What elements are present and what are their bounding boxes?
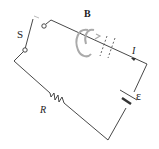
right-wire-upper: [134, 64, 147, 92]
current-label: I: [131, 45, 136, 56]
field-region-dashes: [100, 36, 115, 58]
switch-pivot-terminal: [23, 48, 27, 52]
switch-blade: [25, 19, 33, 49]
bottom-wire-left: [14, 61, 50, 93]
resistor-label: R: [39, 104, 46, 115]
switch-label: S: [17, 28, 23, 40]
current-arrow-icon: [131, 58, 136, 61]
circuit-diagram: S B I R ε: [0, 0, 159, 149]
emf-label: ε: [136, 89, 141, 103]
resistor: [50, 93, 64, 103]
right-wire-lower: [108, 108, 126, 140]
switch-contact-terminal: [42, 24, 46, 28]
field-label: B: [84, 8, 91, 19]
left-wire: [14, 51, 24, 61]
bottom-wire-right: [64, 103, 108, 140]
top-wire: [46, 20, 147, 64]
switch-motion-arrow-icon: [34, 16, 39, 18]
battery: [120, 90, 137, 104]
